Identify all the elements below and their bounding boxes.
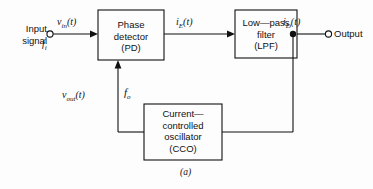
signal-label-f-i: fi: [42, 38, 47, 52]
input-arrowhead: [90, 31, 98, 38]
cco-block: [144, 104, 222, 160]
signal-label-v-in: vin(t): [57, 16, 76, 30]
output-terminal-label: Output: [334, 28, 363, 40]
feedback-arrowhead-into-pd: [115, 60, 122, 69]
signal-label-i-e: iE(t): [176, 16, 193, 30]
pll-block-diagram-figure: Phase detector (PD) Low—pass filter (LPF…: [0, 0, 373, 189]
signal-v-in-suffix: (t): [67, 16, 76, 27]
signal-f-o-sub: o: [127, 93, 131, 101]
signal-label-i-d: iD(t): [283, 16, 300, 30]
pd-to-lpf-arrowhead: [227, 31, 235, 38]
signal-f-i-sub: i: [45, 44, 47, 52]
signal-label-v-out: vout(t): [62, 89, 85, 103]
input-terminal-label-line1: Input: [13, 23, 47, 35]
signal-i-e-suffix: (t): [183, 16, 192, 27]
signal-label-f-o: fo: [124, 86, 131, 101]
phase-detector-block: [98, 10, 164, 60]
output-terminal-circle: [325, 31, 331, 37]
input-terminal-circle: [47, 31, 53, 37]
signal-v-out-suffix: (t): [75, 89, 84, 100]
figure-caption: (a): [180, 167, 191, 177]
signal-i-d-suffix: (t): [291, 16, 300, 27]
